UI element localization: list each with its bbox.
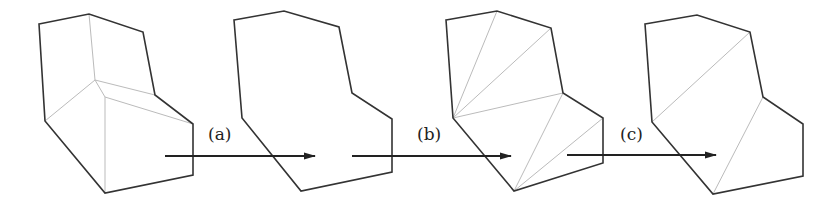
inner-edge: [89, 14, 95, 80]
polygon-outline: [645, 15, 803, 194]
arrow-label-a: (a): [208, 124, 231, 144]
stage-3-triangulated-polygon: [446, 11, 603, 191]
polygon-outline: [234, 11, 392, 191]
inner-edge: [95, 80, 155, 95]
inner-edge: [514, 93, 563, 191]
polygon-outline: [446, 11, 603, 191]
arrow-label-c: (c): [620, 124, 643, 144]
inner-edge: [453, 28, 551, 118]
inner-edge: [652, 32, 750, 122]
arrow-label-b: (b): [417, 124, 441, 144]
inner-edge: [453, 11, 497, 118]
inner-edge: [105, 97, 193, 124]
inner-edge: [453, 93, 563, 118]
stage-4-reduced-triangulation: [645, 15, 803, 194]
polygon-outline: [39, 14, 193, 193]
stage-1-initial-polygon-with-interior-vertices: [39, 14, 193, 193]
diagram-canvas: [0, 0, 839, 205]
inner-edge: [713, 97, 763, 194]
inner-edge: [45, 80, 95, 121]
stage-2-polygon-outline: [234, 11, 392, 191]
